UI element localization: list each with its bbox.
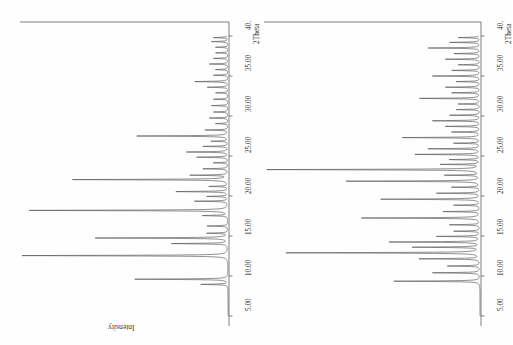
tick-label-left-4: 25.00 bbox=[245, 137, 253, 153]
xrd-panel-right: 5.00 10.00 15.00 20.00 25.00 30.00 35.00… bbox=[254, 0, 507, 345]
tick-label-right-3: 20.00 bbox=[497, 178, 505, 194]
tick-label-right-0: 5.00 bbox=[497, 298, 505, 311]
xrd-plot-right bbox=[254, 0, 507, 345]
tick-label-left-3: 20.00 bbox=[245, 178, 253, 194]
axis-title-intensity-left: Intensity bbox=[108, 323, 135, 332]
tick-label-right-6: 35.00 bbox=[497, 55, 505, 71]
axis-title-2theta-right: 2Theta bbox=[504, 23, 513, 44]
tick-label-left-5: 30.00 bbox=[245, 96, 253, 112]
xrd-plot-left bbox=[0, 0, 253, 345]
tick-label-right-1: 10.00 bbox=[497, 260, 505, 276]
tick-label-left-2: 15.00 bbox=[245, 219, 253, 235]
xrd-trace bbox=[22, 36, 228, 316]
tick-label-left-6: 35.00 bbox=[245, 55, 253, 71]
tick-label-right-4: 25.00 bbox=[497, 137, 505, 153]
tick-label-left-1: 10.00 bbox=[245, 260, 253, 276]
tick-label-left-0: 5.00 bbox=[245, 298, 253, 311]
xrd-trace bbox=[267, 36, 480, 316]
tick-label-right-2: 15.00 bbox=[497, 219, 505, 235]
xrd-panel-left: 5.00 10.00 15.00 20.00 25.00 30.00 35.00… bbox=[0, 0, 253, 345]
tick-label-right-5: 30.00 bbox=[497, 96, 505, 112]
